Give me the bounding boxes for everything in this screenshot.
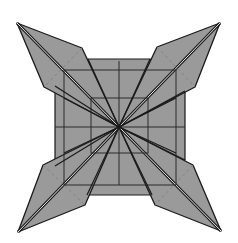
center-point — [117, 125, 121, 129]
origami-star-diagram — [0, 0, 238, 243]
